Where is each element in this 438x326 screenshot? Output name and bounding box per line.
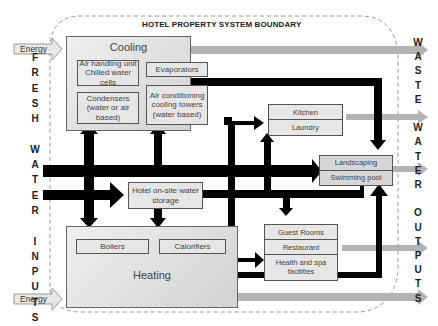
health-and-spa: Health and spa facilities <box>265 255 337 279</box>
ac-cooling-towers: Air conditioning cooling towers (water b… <box>146 85 208 125</box>
water-storage: Hotel on-site water storage <box>128 182 203 209</box>
waste-water-outputs-label: WASTE WATER OUTPUTS <box>411 36 425 306</box>
kitchen-laundry-group: Kitchen Laundry <box>268 104 343 136</box>
boilers: Boilers <box>76 239 149 254</box>
laundry: Laundry <box>269 120 342 134</box>
landscaping: Landscaping <box>320 156 392 171</box>
cooling-title: Cooling <box>67 41 190 54</box>
swimming-pool: Swimming pool <box>320 171 392 185</box>
guest-rooms: Guest Rooms <box>265 225 337 240</box>
evaporators: Evaporators <box>146 62 208 77</box>
heating-title: Heating <box>67 269 237 282</box>
guest-facilities-group: Guest Rooms Restaurant Health and spa fa… <box>264 224 338 281</box>
calorifiers: Calorifiers <box>159 239 226 254</box>
hotel-water-system-diagram: HOTEL PROPERTY SYSTEM BOUNDARY Energy En… <box>0 0 438 326</box>
kitchen: Kitchen <box>269 105 342 120</box>
condensers: Condensers (water or air based) <box>77 92 139 124</box>
boundary-title: HOTEL PROPERTY SYSTEM BOUNDARY <box>142 20 301 29</box>
restaurant: Restaurant <box>265 240 337 255</box>
landscaping-pool-group: Landscaping Swimming pool <box>319 155 393 186</box>
air-handling-unit: Air handling unit Chilled water cells <box>77 60 139 86</box>
fresh-water-inputs-label: FRESH WATER INPUTS <box>28 50 42 325</box>
